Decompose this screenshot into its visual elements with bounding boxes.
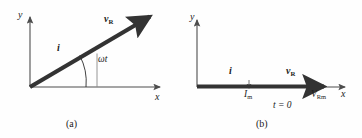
voltage-phasor-label: vR <box>104 14 113 24</box>
panel-b: y x i vR Im VRm t = 0 (b) <box>181 0 362 138</box>
current-phasor-label: i <box>57 43 60 53</box>
voltage-phasor-subscript: R <box>290 70 295 77</box>
panel-b-graphic <box>181 0 362 138</box>
caption-b: (b) <box>256 118 268 129</box>
angle-arc <box>80 56 87 88</box>
current-amplitude-label: Im <box>244 90 252 100</box>
caption-a: (a) <box>66 118 77 129</box>
phasor-arrow <box>30 17 150 88</box>
time-label: t = 0 <box>273 101 292 111</box>
y-axis-label: y <box>190 12 194 22</box>
angle-label: ωt <box>98 55 107 65</box>
current-phasor-label: i <box>229 66 232 76</box>
voltage-amplitude-label: VRm <box>311 90 326 100</box>
panel-a: y x vR i ωt (a) <box>0 0 181 138</box>
x-axis-label: x <box>155 92 159 102</box>
voltage-phasor-subscript: R <box>108 18 113 25</box>
current-amplitude-subscript: m <box>247 93 252 100</box>
phasor-diagram-figure: y x vR i ωt (a) <box>0 0 362 138</box>
y-axis-label: y <box>18 10 22 20</box>
voltage-amplitude-subscript: Rm <box>317 93 326 100</box>
voltage-phasor-label: vR <box>286 66 295 76</box>
x-axis-label: x <box>341 89 345 99</box>
panel-a-graphic <box>0 0 181 138</box>
voltage-amplitude-symbol: V <box>311 89 317 99</box>
